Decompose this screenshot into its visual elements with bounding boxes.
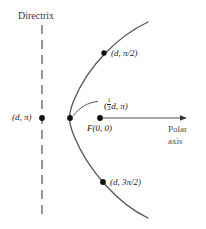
point-top-label: (d, π/2)	[111, 49, 138, 58]
vertex-label-rest: d, π)	[111, 101, 128, 111]
fraction-denominator: 2	[107, 105, 111, 112]
one-half-fraction: 12	[107, 97, 111, 111]
polar-axis-label-line1: Polar	[168, 124, 187, 135]
vertex-marker	[67, 115, 73, 121]
conic-polar-diagram: Directrix (d, π/2) (12d, π) (d, π) F(0, …	[0, 0, 206, 229]
point-bottom-label: (d, 3π/2)	[110, 178, 141, 187]
point-bottom-marker	[100, 179, 106, 185]
point-left-marker	[39, 115, 45, 121]
point-left-label: (d, π)	[12, 113, 32, 122]
vertex-label: (12d, π)	[104, 97, 128, 111]
point-top-marker	[101, 50, 106, 55]
vertex-leader-line	[74, 102, 98, 116]
polar-axis-label-line2: axis	[168, 136, 183, 147]
directrix-label: Directrix	[18, 11, 54, 21]
focus-label: F(0, 0)	[87, 124, 112, 133]
focus-marker	[97, 115, 103, 121]
